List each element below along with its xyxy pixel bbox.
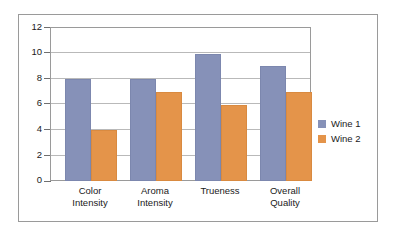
bar-wine1-color-intensity <box>65 79 91 181</box>
y-tick-label-12: 12 <box>14 22 42 32</box>
x-label-overall-quality-line2: Quality <box>245 197 325 209</box>
y-tick-label-0: 0 <box>14 175 42 185</box>
bar-wine2-trueness <box>221 105 247 182</box>
x-label-overall-quality: Overall Quality <box>245 185 325 208</box>
legend-swatch-wine-1 <box>318 120 326 128</box>
y-axis-tick-labels: 12 10 8 6 4 2 0 <box>8 0 42 238</box>
chart-legend: Wine 1 Wine 2 <box>318 117 374 147</box>
y-tick-label-2: 2 <box>14 150 42 160</box>
legend-label-wine-2: Wine 2 <box>331 134 361 144</box>
y-tick-label-6: 6 <box>14 98 42 108</box>
bar-wine2-overall-quality <box>286 92 312 181</box>
legend-swatch-wine-2 <box>318 135 326 143</box>
y-tick-label-4: 4 <box>14 124 42 134</box>
x-axis-category-labels: Color Intensity Aroma Intensity Trueness… <box>50 185 311 225</box>
legend-label-wine-1: Wine 1 <box>331 119 361 129</box>
bar-wine2-color-intensity <box>91 130 117 181</box>
legend-item-wine-1: Wine 1 <box>318 117 374 130</box>
legend-item-wine-2: Wine 2 <box>318 132 374 145</box>
bar-wine1-aroma-intensity <box>130 79 156 181</box>
bar-wine2-aroma-intensity <box>156 92 182 181</box>
bar-wine1-trueness <box>195 54 221 182</box>
x-label-aroma-intensity-line2: Intensity <box>115 197 195 209</box>
x-label-overall-quality-line1: Overall <box>245 185 325 197</box>
y-tick-label-8: 8 <box>14 73 42 83</box>
chart-figure: 12 10 8 6 4 2 0 Color Intensity <box>0 0 401 238</box>
bars-layer <box>51 28 310 181</box>
y-tick-label-10: 10 <box>14 47 42 57</box>
bar-wine1-overall-quality <box>260 66 286 181</box>
